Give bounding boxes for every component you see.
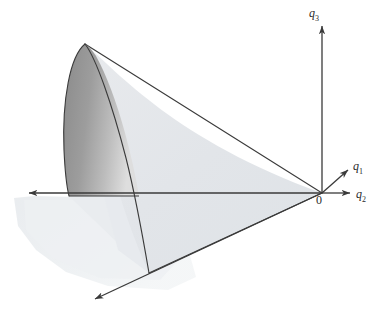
- axis-label-q2-subscript: 2: [362, 195, 366, 204]
- axis-q1: [322, 170, 348, 193]
- geometry-diagram-svg: [0, 0, 386, 319]
- axis-label-q3: q3: [309, 6, 319, 22]
- axis-label-q2: q2: [356, 187, 366, 203]
- figure-canvas: q3 q1 q2 0: [0, 0, 386, 319]
- axis-label-q3-subscript: 3: [315, 14, 319, 23]
- axis-label-q1: q1: [353, 159, 363, 175]
- axis-label-q1-subscript: 1: [359, 167, 363, 176]
- origin-label: 0: [316, 193, 322, 208]
